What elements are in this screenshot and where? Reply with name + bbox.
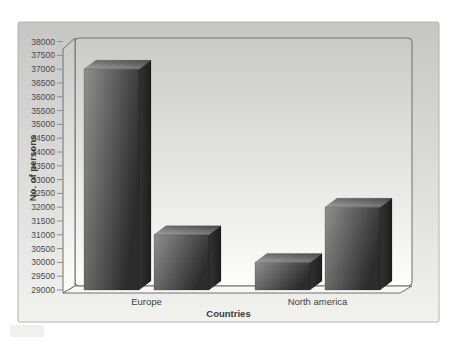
- y-tick-label-36000: 36000: [31, 92, 55, 102]
- bar-top-face: [325, 198, 392, 207]
- plot-left-wall: [63, 38, 75, 293]
- bar-top-face: [154, 226, 221, 235]
- y-tick-label-29000: 29000: [31, 285, 55, 295]
- category-label-europe: Europe: [131, 296, 162, 307]
- bar-front-face: [154, 235, 209, 290]
- bar-front-face: [325, 207, 380, 290]
- y-tick-label-35000: 35000: [31, 119, 55, 129]
- y-tick-label-29500: 29500: [31, 271, 55, 281]
- y-tick-label-31500: 31500: [31, 216, 55, 226]
- y-tick-label-31000: 31000: [31, 230, 55, 240]
- bar-europe-1: [84, 60, 151, 290]
- bar-front-face: [255, 262, 310, 290]
- bar-side-face: [380, 198, 392, 290]
- y-tick-label-30000: 30000: [31, 257, 55, 267]
- bar-top-face: [255, 253, 322, 262]
- bar-north-america-2: [325, 198, 392, 290]
- y-tick-label-37000: 37000: [31, 64, 55, 74]
- y-tick-label-38000: 38000: [31, 37, 55, 47]
- y-axis-title: No. of persons: [27, 135, 38, 202]
- y-tick-label-35500: 35500: [31, 106, 55, 116]
- screenshot-root: 2900029500300003050031000315003200032500…: [0, 0, 457, 342]
- bar-side-face: [209, 226, 221, 290]
- bar-front-face: [84, 69, 139, 290]
- category-label-north-america: North america: [288, 296, 348, 307]
- scan-artifact: [10, 325, 44, 337]
- bar-top-face: [84, 60, 151, 69]
- bar-side-face: [139, 60, 151, 290]
- y-tick-label-32000: 32000: [31, 202, 55, 212]
- bar-north-america-1: [255, 253, 322, 290]
- bar-europe-2: [154, 226, 221, 290]
- y-tick-label-37500: 37500: [31, 50, 55, 60]
- x-axis-title: Countries: [206, 308, 250, 319]
- y-tick-label-36500: 36500: [31, 78, 55, 88]
- chart-canvas: 2900029500300003050031000315003200032500…: [0, 0, 457, 342]
- y-tick-label-30500: 30500: [31, 244, 55, 254]
